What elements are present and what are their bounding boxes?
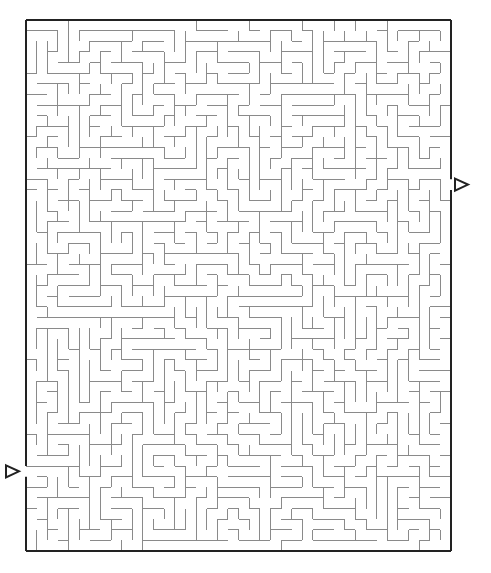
maze-walls xyxy=(26,20,451,551)
maze-board xyxy=(0,0,491,573)
entrance-arrow-icon xyxy=(6,465,19,477)
exit-arrow-icon xyxy=(455,179,468,191)
